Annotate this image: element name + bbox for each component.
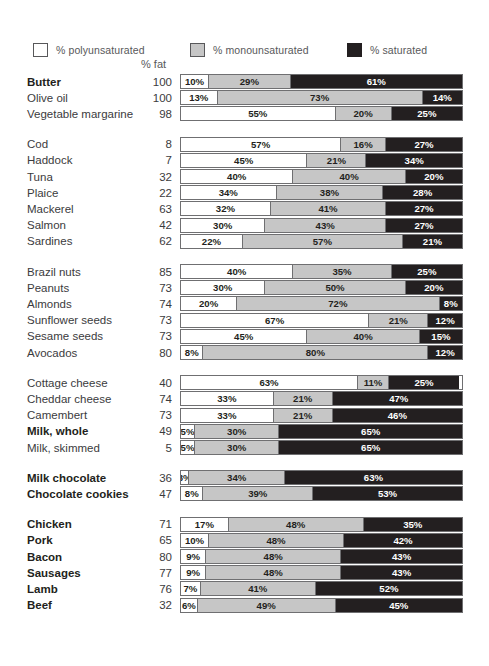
bar-segment-sat: 43% <box>341 550 462 563</box>
bar-segment-mono: 48% <box>206 566 341 579</box>
stacked-bar: 40%40%20% <box>180 169 463 184</box>
bar-segment-sat: 25% <box>392 265 462 278</box>
bar-segment-poly: 8% <box>181 346 203 359</box>
stacked-bar: 45%21%34% <box>180 153 463 168</box>
bar-segment-mono: 11% <box>358 376 389 389</box>
row-label: Chicken <box>27 516 72 532</box>
stacked-bar: 57%16%27% <box>180 137 463 152</box>
bar-segment-poly: 13% <box>181 91 218 104</box>
row-label: Pork <box>27 532 53 548</box>
chart-row: Camembert7333%21%46% <box>0 407 489 423</box>
stacked-bar: 30%50%20% <box>180 280 463 295</box>
bar-segment-sat: 25% <box>389 376 459 389</box>
chart-row: Sausages779%48%43% <box>0 565 489 581</box>
bar-segment-sat: 45% <box>336 599 462 612</box>
bar-segment-poly: 20% <box>181 297 237 310</box>
chart-row: Bacon809%48%43% <box>0 549 489 565</box>
bar-segment-sat: 20% <box>406 281 462 294</box>
chart-row: Milk, whole495%30%65% <box>0 423 489 439</box>
bar-segment-mono: 40% <box>293 170 405 183</box>
legend-swatch-white-icon <box>33 43 48 57</box>
row-label: Butter <box>27 74 61 90</box>
stacked-bar: 33%21%47% <box>180 391 463 406</box>
stacked-bar: 9%48%43% <box>180 565 463 580</box>
bar-segment-sat: 25% <box>392 107 462 120</box>
bar-segment-sat: 63% <box>285 471 462 484</box>
bar-segment-sat: 27% <box>386 138 462 151</box>
bar-segment-poly: 10% <box>181 75 209 88</box>
chart-row: Beef326%49%45% <box>0 597 489 613</box>
stacked-bar: 8%39%53% <box>180 486 463 501</box>
chart-row: Mackerel6332%41%27% <box>0 201 489 217</box>
bar-segment-poly: 33% <box>181 409 274 422</box>
row-label: Cod <box>27 136 48 152</box>
row-fat-value: 73 <box>122 328 172 344</box>
row-label: Peanuts <box>27 280 69 296</box>
bar-segment-poly: 9% <box>181 550 206 563</box>
stacked-bar: 9%48%43% <box>180 549 463 564</box>
bar-segment-sat: 28% <box>383 186 462 199</box>
chart-row: Cod857%16%27% <box>0 136 489 152</box>
row-fat-value: 71 <box>122 516 172 532</box>
row-fat-value: 65 <box>122 532 172 548</box>
legend-label-monounsaturated: % monounsaturated <box>213 44 309 56</box>
stacked-bar: 5%30%65% <box>180 424 463 439</box>
chart-row: Sesame seeds7345%40%15% <box>0 328 489 344</box>
row-fat-value: 7 <box>122 152 172 168</box>
stacked-bar: 45%40%15% <box>180 329 463 344</box>
bar-segment-sat: 34% <box>366 154 462 167</box>
row-label: Sesame seeds <box>27 328 103 344</box>
row-fat-value: 8 <box>122 136 172 152</box>
row-label: Sausages <box>27 565 81 581</box>
chart-row: Chocolate cookies478%39%53% <box>0 486 489 502</box>
row-label: Lamb <box>27 581 58 597</box>
row-label: Plaice <box>27 185 58 201</box>
bar-segment-mono: 21% <box>274 409 333 422</box>
row-label: Camembert <box>27 407 87 423</box>
row-label: Mackerel <box>27 201 74 217</box>
row-label: Milk chocolate <box>27 470 106 486</box>
bar-segment-mono: 39% <box>203 487 313 500</box>
row-label: Tuna <box>27 169 53 185</box>
bar-segment-poly: 63% <box>181 376 358 389</box>
legend-item-polyunsaturated: % polyunsaturated <box>33 40 145 60</box>
stacked-bar: 3%34%63% <box>180 470 463 485</box>
row-fat-value: 98 <box>122 106 172 122</box>
bar-segment-mono: 41% <box>201 582 316 595</box>
chart-row: Butter10010%29%61% <box>0 74 489 90</box>
bar-segment-mono: 72% <box>237 297 439 310</box>
chart-legend: % polyunsaturated % monounsaturated % sa… <box>0 40 489 60</box>
bar-segment-poly: 45% <box>181 330 307 343</box>
row-fat-value: 22 <box>122 185 172 201</box>
chart-row: Plaice2234%38%28% <box>0 185 489 201</box>
row-fat-value: 80 <box>122 345 172 361</box>
row-fat-value: 100 <box>122 90 172 106</box>
bar-segment-mono: 48% <box>229 518 364 531</box>
chart-row: Sunflower seeds7367%21%12% <box>0 312 489 328</box>
bar-segment-poly: 5% <box>181 425 195 438</box>
bar-segment-poly: 17% <box>181 518 229 531</box>
row-fat-value: 100 <box>122 74 172 90</box>
row-label: Sardines <box>27 233 72 249</box>
bar-segment-mono: 48% <box>209 534 344 547</box>
bar-segment-sat: 47% <box>333 392 463 405</box>
row-label: Cheddar cheese <box>27 391 111 407</box>
stacked-bar: 13%73%14% <box>180 90 463 105</box>
row-label: Vegetable margarine <box>27 106 133 122</box>
row-fat-value: 80 <box>122 549 172 565</box>
row-fat-value: 85 <box>122 264 172 280</box>
row-label: Salmon <box>27 217 66 233</box>
bar-segment-poly: 5% <box>181 441 195 454</box>
bar-segment-mono: 21% <box>307 154 366 167</box>
bar-segment-mono: 29% <box>209 75 290 88</box>
bar-segment-poly: 55% <box>181 107 336 120</box>
chart-row: Avocados808%80%12% <box>0 345 489 361</box>
legend-label-polyunsaturated: % polyunsaturated <box>56 44 145 56</box>
bar-segment-mono: 34% <box>189 471 285 484</box>
chart-row: Brazil nuts8540%35%25% <box>0 264 489 280</box>
chart-row: Chicken7117%48%35% <box>0 516 489 532</box>
row-label: Milk, whole <box>27 423 88 439</box>
bar-segment-sat: 65% <box>279 441 462 454</box>
row-label: Milk, skimmed <box>27 440 100 456</box>
chart-row: Salmon4230%43%27% <box>0 217 489 233</box>
